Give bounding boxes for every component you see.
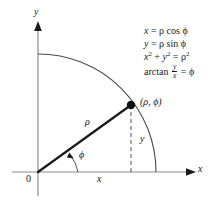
eq3-exp-x: 2: [148, 50, 151, 57]
eq1-lhs: x: [144, 25, 148, 36]
point-marker: [127, 101, 135, 109]
eq4-equals: =: [181, 66, 187, 77]
equation-line-1: x = ρ cos ϕ: [144, 24, 194, 37]
x-axis-label: x: [198, 164, 202, 174]
eq2-rhs: ρ sin ϕ: [159, 38, 186, 49]
origin-label: 0: [26, 174, 31, 184]
x-axis-arrowhead: [186, 168, 196, 176]
point-coordinate-label: (ρ, ϕ): [140, 97, 162, 107]
angle-arc-arrowhead: [67, 153, 74, 159]
eq2-lhs: y: [144, 38, 148, 49]
radius-label: ρ: [85, 117, 90, 127]
quarter-circle-arc: [38, 54, 156, 172]
eq4-rhs: ϕ: [189, 66, 194, 77]
equation-line-4: arctan y x = ϕ: [144, 63, 194, 76]
x-segment-label: x: [97, 174, 101, 184]
eq4-denominator: x: [172, 72, 177, 80]
eq3-equals: =: [173, 51, 179, 62]
eq4-fraction: y x: [172, 63, 177, 80]
eq1-equals: =: [151, 25, 157, 36]
eq3-plus: +: [154, 51, 160, 62]
eq1-rhs: ρ cos ϕ: [159, 25, 188, 36]
y-axis-label: y: [34, 7, 38, 17]
angle-label: ϕ: [79, 150, 84, 160]
equation-block: x = ρ cos ϕ y = ρ sin ϕ x2 + y2 = ρ2 arc…: [144, 24, 194, 76]
eq3-exp-y: 2: [167, 50, 170, 57]
y-segment-label: y: [140, 134, 144, 144]
eq4-function: arctan: [144, 66, 168, 77]
polar-coordinates-figure: y x 0 ρ ϕ x y (ρ, ϕ) x = ρ cos ϕ y = ρ s…: [0, 0, 213, 203]
equation-line-2: y = ρ sin ϕ: [144, 37, 194, 50]
eq3-exp-rho: 2: [186, 50, 189, 57]
eq2-equals: =: [151, 38, 157, 49]
equation-line-3: x2 + y2 = ρ2: [144, 50, 194, 63]
y-axis-arrowhead: [34, 21, 42, 31]
